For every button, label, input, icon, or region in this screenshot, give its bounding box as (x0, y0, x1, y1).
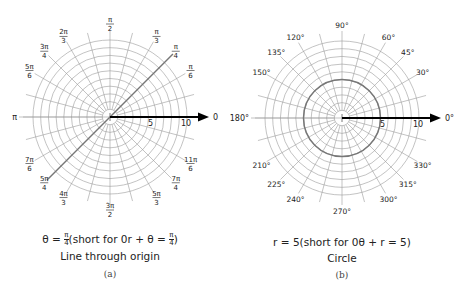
angle-label-num: 4π (59, 190, 68, 198)
angle-label-den: 4 (42, 184, 47, 192)
angle-label: 135° (267, 48, 285, 57)
angle-label-den: 2 (108, 25, 112, 33)
angle-label-den: 4 (174, 184, 179, 192)
angle-label-num: 5π (40, 175, 49, 183)
angle-label-num: 11π (184, 156, 198, 164)
axis-label-zero: 0 (213, 113, 218, 122)
angle-label-num: 5π (25, 63, 34, 71)
angle-label: 30° (416, 68, 430, 77)
axis-label-pi: 180° (230, 114, 249, 123)
angle-label: 120° (286, 33, 304, 42)
angle-label-den: 3 (154, 199, 158, 207)
angle-label-den: 4 (42, 52, 47, 60)
axis-label-pi: π (12, 113, 17, 122)
polar-grid-a: 5100ππ2π3π4π62π33π45π67π65π44π33π25π37π4… (12, 16, 218, 219)
angle-label-num: 3π (40, 43, 49, 51)
angle-label-den: 2 (108, 211, 112, 219)
grid-spoke (347, 123, 403, 179)
angle-label-den: 3 (61, 37, 65, 45)
angle-label-den: 6 (188, 165, 193, 173)
angle-label-den: 6 (188, 72, 193, 80)
arrow-head-icon (198, 113, 209, 122)
angle-label: 240° (286, 195, 304, 204)
angle-label-num: π (188, 63, 193, 71)
caption-b-equation: r = 5(short for 0θ + r = 5) (252, 236, 432, 248)
angle-label-num: π (154, 28, 159, 36)
caption-b-title: Circle (252, 252, 432, 264)
angle-label-num: 3π (106, 202, 115, 210)
angle-label: 90° (335, 21, 349, 30)
polar-grid-b: 5100°180°90°60°45°30°120°135°150°210°225… (230, 21, 454, 216)
angle-label: 150° (252, 68, 270, 77)
axis-label-5: 5 (380, 120, 385, 129)
grid-spoke (48, 55, 104, 111)
caption-b-label: (b) (252, 270, 432, 280)
angle-label-num: 7π (25, 156, 34, 164)
axis-label-10: 10 (413, 120, 423, 129)
angle-label-den: 6 (27, 165, 32, 173)
angle-label-num: π (108, 16, 113, 24)
angle-label-den: 3 (154, 37, 158, 45)
angle-label-den: 4 (174, 52, 179, 60)
axis-label-5: 5 (148, 119, 153, 128)
angle-label: 60° (382, 33, 396, 42)
angle-label-num: 7π (171, 175, 180, 183)
angle-label: 210° (252, 161, 270, 170)
angle-label-num: 2π (59, 28, 68, 36)
caption-a-equation: θ = π4(short for 0r + θ = π4) (20, 232, 200, 247)
arrow-head-icon (430, 114, 441, 123)
angle-label-den: 3 (61, 199, 65, 207)
caption-a-title: Line through origin (20, 250, 200, 262)
angle-label-num: 5π (152, 190, 161, 198)
angle-label-den: 6 (27, 72, 32, 80)
eq-rest: (short for 0r + θ = (69, 233, 170, 245)
angle-label: 300° (379, 195, 397, 204)
grid-spoke (280, 56, 336, 112)
eq-close: ) (174, 233, 178, 245)
grid-spoke (115, 122, 171, 178)
angle-label: 330° (414, 161, 432, 170)
angle-label: 315° (399, 180, 417, 189)
eq-theta: θ = (42, 233, 64, 245)
grid-spoke (347, 56, 403, 112)
angle-label: 270° (333, 207, 351, 216)
caption-a-label: (a) (20, 269, 200, 279)
angle-label: 225° (267, 180, 285, 189)
axis-label-10: 10 (181, 119, 191, 128)
axis-label-zero: 0° (445, 114, 454, 123)
grid-spoke (280, 123, 336, 179)
angle-label: 45° (401, 48, 415, 57)
angle-label-num: π (174, 43, 179, 51)
